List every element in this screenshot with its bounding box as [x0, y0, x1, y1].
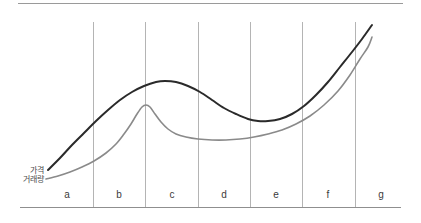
phase-label-b: b: [116, 189, 122, 200]
phase-label-group: abcdefg: [64, 189, 384, 200]
phase-label-d: d: [221, 189, 227, 200]
series-curve-1: [48, 25, 372, 170]
phase-divider-group: [93, 22, 355, 207]
phase-label-f: f: [327, 189, 330, 200]
phase-label-g: g: [378, 189, 384, 200]
series-label-1: 가격: [30, 165, 44, 175]
chart-canvas: 가격거래량 abcdefg: [0, 0, 421, 223]
phase-label-e: e: [273, 189, 279, 200]
phase-label-a: a: [64, 189, 70, 200]
series-legend-group: 가격거래량: [23, 165, 45, 184]
series-group: [46, 25, 372, 179]
price-volume-phase-chart: 가격거래량 abcdefg: [0, 0, 421, 223]
series-label-2: 거래량: [23, 174, 45, 184]
phase-label-c: c: [170, 189, 175, 200]
series-curve-2: [46, 37, 372, 179]
